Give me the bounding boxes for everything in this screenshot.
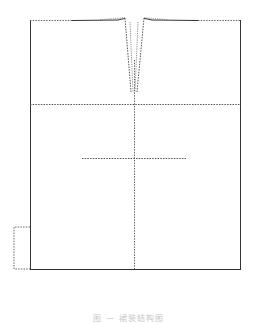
waistline-curve-dashed [100, 18, 168, 20]
figure-caption: 图 — 裙装结构图 [0, 312, 257, 323]
side-extension-bracket [14, 227, 30, 269]
waistline-curve [72, 19, 198, 21]
dart-inner-right [135, 22, 138, 92]
dart-inner-left [130, 22, 133, 92]
